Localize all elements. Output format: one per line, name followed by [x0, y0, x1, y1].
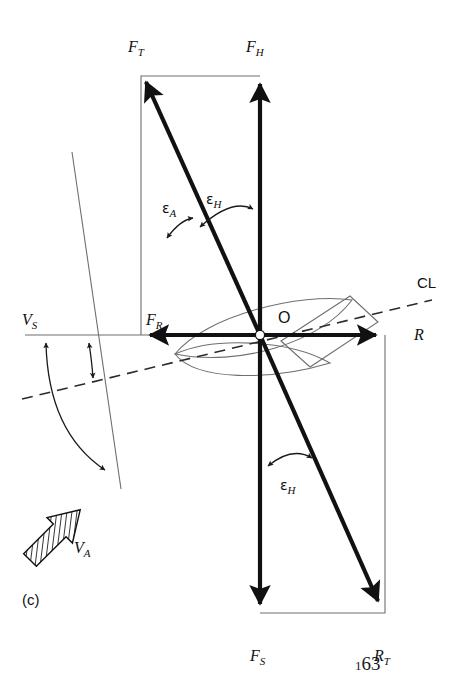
figure-container: FT FH FR FS R RT VS VA O [0, 0, 458, 682]
label-R: R [413, 326, 424, 343]
diagram-background [0, 0, 458, 682]
label-centreline: CL [417, 274, 436, 291]
panel-label: (c) [22, 591, 40, 608]
origin-point [255, 330, 264, 339]
vector-force-diagram: FT FH FR FS R RT VS VA O [0, 0, 458, 682]
label-origin: O [278, 309, 290, 326]
